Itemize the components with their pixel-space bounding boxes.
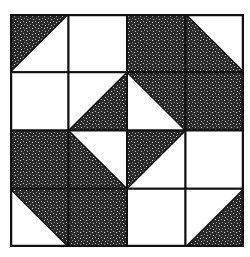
- quilt-cell: [186, 14, 245, 72]
- quilt-cell: [186, 72, 245, 130]
- quilt-cell: [186, 189, 245, 247]
- quilt-cell: [127, 131, 186, 189]
- quilt-cell: [10, 14, 69, 72]
- quilt-block-diagram: [10, 14, 244, 247]
- shaded-triangle: [186, 72, 245, 130]
- shaded-triangle: [127, 14, 186, 72]
- quilt-cell: [69, 131, 128, 189]
- quilt-cell: [69, 189, 128, 247]
- quilt-cell: [69, 72, 128, 130]
- quilt-cell: [10, 72, 69, 130]
- quilt-cell: [127, 189, 186, 247]
- quilt-cell: [69, 14, 128, 72]
- shaded-triangle: [10, 131, 69, 189]
- quilt-grid: [10, 14, 244, 247]
- quilt-cell: [186, 131, 245, 189]
- shaded-triangle: [69, 189, 128, 247]
- quilt-cell: [127, 72, 186, 130]
- quilt-cell: [127, 14, 186, 72]
- quilt-cell: [10, 131, 69, 189]
- quilt-cell: [10, 189, 69, 247]
